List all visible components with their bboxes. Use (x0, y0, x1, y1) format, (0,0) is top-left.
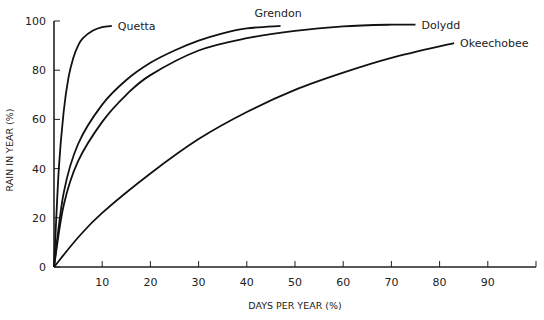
x-tick-label: 50 (288, 276, 302, 289)
y-tick-label: 60 (32, 113, 46, 126)
series-label-okeechobee: Okeechobee (460, 37, 529, 50)
y-tick-label: 100 (25, 15, 46, 28)
series-label-grendon: Grendon (255, 7, 302, 20)
x-tick-label: 30 (192, 276, 206, 289)
x-tick-label: 10 (95, 276, 109, 289)
x-tick-label: 20 (143, 276, 157, 289)
x-axis-label: DAYS PER YEAR (%) (248, 300, 341, 311)
y-axis-label: RAIN IN YEAR (%) (4, 109, 15, 192)
series-lines: QuettaGrendonDolyddOkeechobee (54, 7, 529, 267)
x-tick-label: 80 (433, 276, 447, 289)
rainfall-distribution-chart: 020406080100 102030405060708090 QuettaGr… (0, 0, 544, 320)
y-tick-label: 0 (39, 261, 46, 274)
x-tick-label: 90 (481, 276, 495, 289)
series-line-okeechobee (54, 43, 454, 267)
series-label-dolydd: Dolydd (422, 19, 461, 32)
series-line-grendon (54, 26, 281, 267)
x-tick-label: 70 (384, 276, 398, 289)
series-label-quetta: Quetta (118, 20, 156, 33)
x-tick-label: 40 (240, 276, 254, 289)
series-line-dolydd (54, 25, 416, 267)
x-axis: 102030405060708090 (54, 261, 536, 289)
y-tick-label: 40 (32, 163, 46, 176)
y-tick-label: 20 (32, 212, 46, 225)
y-tick-label: 80 (32, 64, 46, 77)
x-tick-label: 60 (336, 276, 350, 289)
